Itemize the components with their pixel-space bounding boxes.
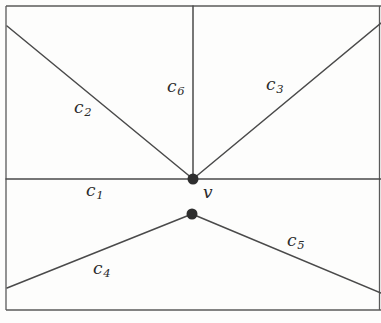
edge-c3 <box>193 23 381 179</box>
label-c1: c1 <box>86 182 103 199</box>
label-c1-base: c <box>86 180 96 200</box>
vertex-lower <box>187 209 198 220</box>
label-c6-subscript: 6 <box>177 84 185 98</box>
vertex-v <box>188 174 199 185</box>
label-c5-subscript: 5 <box>297 238 305 252</box>
label-c5-base: c <box>287 230 297 250</box>
label-c2-base: c <box>74 97 84 117</box>
label-c4-base: c <box>93 258 103 278</box>
label-vertex-v: v <box>203 184 213 201</box>
label-c3: c3 <box>266 76 283 93</box>
label-c2: c2 <box>74 99 91 116</box>
label-c1-subscript: 1 <box>96 188 104 202</box>
edge-c2 <box>7 26 193 179</box>
label-c3-subscript: 3 <box>276 82 284 96</box>
graph-edges-group <box>6 6 381 293</box>
label-c6: c6 <box>167 78 184 95</box>
diagram-canvas <box>0 0 381 323</box>
edge-c5 <box>192 214 381 293</box>
label-c6-base: c <box>167 76 177 96</box>
planar-graph-figure: c2c6c3c1c4c5 v <box>0 0 381 323</box>
label-c2-subscript: 2 <box>84 105 92 119</box>
graph-vertices-group <box>187 174 199 220</box>
label-c4-subscript: 4 <box>103 266 111 280</box>
label-c3-base: c <box>266 74 276 94</box>
label-c4: c4 <box>93 260 110 277</box>
label-c5: c5 <box>287 232 304 249</box>
